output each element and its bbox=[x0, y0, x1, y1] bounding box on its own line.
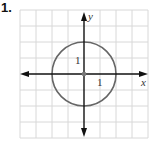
coordinate-graph: y x 1 1 bbox=[0, 0, 157, 146]
x-tick-label: 1 bbox=[97, 76, 103, 88]
y-tick-label: 1 bbox=[75, 54, 81, 66]
x-axis-label: x bbox=[140, 76, 146, 88]
origin-point bbox=[82, 72, 87, 77]
y-axis-label: y bbox=[87, 10, 93, 22]
